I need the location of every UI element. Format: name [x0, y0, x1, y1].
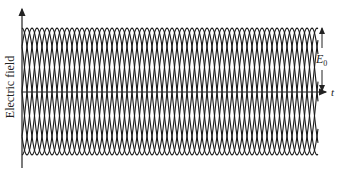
wave-figure: Electric field t E0 — [0, 0, 342, 178]
amplitude-label: E0 — [316, 52, 327, 68]
t-axis-label: t — [331, 86, 334, 98]
wave-plot — [0, 0, 342, 178]
y-axis-label: Electric field — [3, 47, 17, 127]
